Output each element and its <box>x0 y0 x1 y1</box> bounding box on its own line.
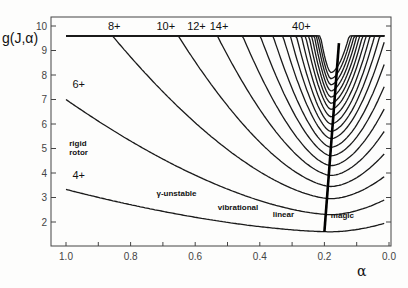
y-tick-label: 8 <box>41 70 47 81</box>
y-tick-label: 2 <box>41 217 47 228</box>
curve-label-10plus: 10+ <box>156 20 175 32</box>
region-label-rotor: rotor <box>69 148 88 157</box>
x-tick-label: 0.4 <box>253 251 267 262</box>
region-label-vibrational: vibrational <box>218 203 258 212</box>
y-tick-label: 7 <box>41 94 47 105</box>
curve-label-14plus: 14+ <box>210 20 229 32</box>
x-tick-label: 0.8 <box>124 251 138 262</box>
region-label-unstable: γ-unstable <box>156 189 197 198</box>
region-label-magic: magic <box>331 211 355 220</box>
y-tick-label: 3 <box>41 192 47 203</box>
y-axis-title: g(J,α) <box>2 30 38 46</box>
region-label-linear: linear <box>273 210 294 219</box>
curve-label-12plus: 12+ <box>187 20 206 32</box>
x-axis-title: α <box>357 263 367 279</box>
y-tick-label: 5 <box>41 143 47 154</box>
curve-label-8plus: 8+ <box>108 20 121 32</box>
curve-label-6plus: 6+ <box>72 78 85 90</box>
curve-label-40plus: 40+ <box>292 20 311 32</box>
curve-16plus <box>66 36 384 156</box>
y-tick-label: 6 <box>41 119 47 130</box>
curve-6plus <box>66 100 384 215</box>
chart: 1.00.80.60.40.20.0 2345678910 4+6+8+10+1… <box>0 0 408 288</box>
curve-label-4plus: 4+ <box>72 169 85 181</box>
x-tick-label: 0.2 <box>317 251 331 262</box>
x-axis: 1.00.80.60.40.20.0 <box>59 242 396 262</box>
y-tick-label: 4 <box>41 168 47 179</box>
x-tick-label: 1.0 <box>59 251 73 262</box>
x-tick-label: 0.0 <box>382 251 396 262</box>
y-tick-label: 9 <box>41 45 47 56</box>
region-annotations: rigidrotorγ-unstablevibrationallinearmag… <box>69 139 354 220</box>
x-tick-label: 0.6 <box>188 251 202 262</box>
